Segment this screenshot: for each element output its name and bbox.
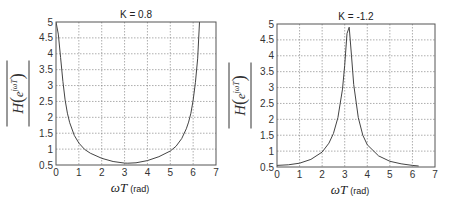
svg-text:H(ejωT): H(ejωT) xyxy=(7,73,28,115)
y-tick-label: 4.5 xyxy=(39,32,53,43)
x-tick-label: 6 xyxy=(410,169,416,180)
y-tick-label: 3.5 xyxy=(39,64,53,75)
data-line xyxy=(56,22,200,163)
x-tick-label: 6 xyxy=(190,167,196,178)
y-tick-label: 2 xyxy=(268,114,274,125)
y-tick-label: 3 xyxy=(268,82,274,93)
y-tick-label: 4 xyxy=(268,50,274,61)
y-axis-label: H(ejωT) xyxy=(229,63,251,129)
x-tick-label: 2 xyxy=(99,167,105,178)
x-tick-label: 2 xyxy=(319,169,325,180)
y-tick-label: 2.5 xyxy=(260,98,274,109)
svg-text:H(ejωT): H(ejωT) xyxy=(229,75,250,117)
y-tick-label: 4.5 xyxy=(260,34,274,45)
x-tick-label: 4 xyxy=(145,167,151,178)
chart-panel-2: 012345670.511.522.533.544.55K = -1.2ωT(r… xyxy=(229,11,438,197)
x-tick-label: 1 xyxy=(76,167,82,178)
chart-title: K = -1.2 xyxy=(338,11,374,22)
x-tick-label: 0 xyxy=(53,167,59,178)
y-tick-label: 2.5 xyxy=(39,96,53,107)
x-tick-label: 0 xyxy=(274,169,280,180)
x-axis-label: ωT(rad) xyxy=(111,180,149,195)
y-tick-label: 1.5 xyxy=(39,128,53,139)
y-tick-label: 5 xyxy=(47,17,53,28)
y-tick-label: 1.5 xyxy=(260,130,274,141)
x-tick-label: 7 xyxy=(432,169,438,180)
y-tick-label: 3 xyxy=(47,80,53,91)
y-axis-label: H(ejωT) xyxy=(7,61,29,127)
chart-title: K = 0.8 xyxy=(120,9,152,20)
y-tick-label: 0.5 xyxy=(260,162,274,173)
chart-figure: 012345670.511.522.533.544.55K = 0.8ωT(ra… xyxy=(0,0,452,202)
y-tick-label: 5 xyxy=(268,19,274,30)
y-tick-label: 4 xyxy=(47,48,53,59)
x-tick-label: 7 xyxy=(213,167,219,178)
x-tick-label: 5 xyxy=(168,167,174,178)
x-tick-label: 3 xyxy=(342,169,348,180)
data-line xyxy=(277,27,419,166)
axes-frame xyxy=(277,24,435,167)
y-tick-label: 1 xyxy=(268,146,274,157)
y-tick-label: 1 xyxy=(47,144,53,155)
x-tick-label: 3 xyxy=(122,167,128,178)
chart-panel-1: 012345670.511.522.533.544.55K = 0.8ωT(ra… xyxy=(7,9,219,195)
y-tick-label: 0.5 xyxy=(39,160,53,171)
x-tick-label: 1 xyxy=(297,169,303,180)
x-tick-label: 5 xyxy=(387,169,393,180)
x-axis-label: ωT(rad) xyxy=(331,182,369,197)
y-tick-label: 2 xyxy=(47,112,53,123)
x-tick-label: 4 xyxy=(365,169,371,180)
axes-frame xyxy=(56,22,216,165)
y-tick-label: 3.5 xyxy=(260,66,274,77)
